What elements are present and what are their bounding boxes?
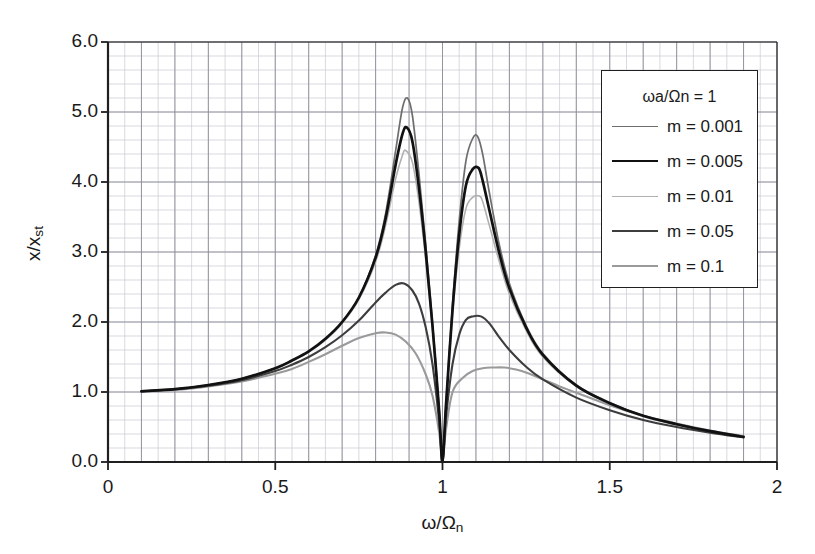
legend-item: m = 0.005 [612, 150, 752, 172]
y-axis-title-sub: st [31, 226, 46, 237]
x-tick-label: 1.5 [580, 476, 640, 498]
x-axis-title: ω/Ωn [108, 512, 777, 535]
x-tick-label: 1 [413, 476, 473, 498]
x-tick-label: 2 [747, 476, 807, 498]
legend-item-label: m = 0.05 [667, 223, 734, 240]
y-axis-title: x/xst [23, 224, 46, 264]
legend-title: ωa/Ωn = 1 [602, 88, 757, 106]
y-tick-label: 4.0 [40, 170, 98, 192]
legend-line-swatch [612, 160, 658, 162]
legend-line-swatch [612, 126, 658, 127]
x-axis-title-sub: n [456, 520, 464, 535]
y-tick-label: 3.0 [40, 240, 98, 262]
legend-item-label: m = 0.001 [667, 118, 743, 135]
figure-root: 6.05.04.03.02.01.00.0 00.511.52 x/xst ω/… [0, 0, 815, 554]
y-tick-label: 1.0 [40, 380, 98, 402]
y-axis-title-main: x/x [23, 237, 44, 261]
legend-item-label: m = 0.01 [667, 188, 734, 205]
y-tick-label: 5.0 [40, 100, 98, 122]
x-tick-label: 0 [78, 476, 138, 498]
legend-item: m = 0.05 [612, 220, 752, 242]
y-tick-label: 2.0 [40, 310, 98, 332]
x-axis-title-main: ω/Ω [422, 512, 456, 533]
legend-item: m = 0.1 [612, 255, 752, 277]
y-tick-label: 0.0 [40, 450, 98, 472]
legend-line-swatch [612, 265, 658, 267]
x-tick-label: 0.5 [245, 476, 305, 498]
legend-item: m = 0.001 [612, 115, 752, 137]
y-tick-label: 6.0 [40, 30, 98, 52]
legend-line-swatch [612, 196, 658, 197]
legend-item: m = 0.01 [612, 185, 752, 207]
legend-item-label: m = 0.005 [667, 153, 743, 170]
legend-line-swatch [612, 230, 658, 232]
legend-box: ωa/Ωn = 1 m = 0.001m = 0.005m = 0.01m = … [601, 70, 758, 288]
legend-item-label: m = 0.1 [667, 258, 724, 275]
